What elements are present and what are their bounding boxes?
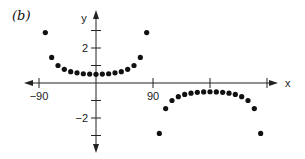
data-point (106, 71, 111, 76)
data-point (112, 70, 117, 75)
data-point (81, 71, 86, 76)
axis-labels: −90902−2xy (30, 12, 291, 124)
data-point (182, 92, 187, 97)
data-point (87, 71, 92, 76)
y-tick-label: 2 (82, 42, 88, 54)
data-point (226, 91, 231, 96)
y-axis-up-arrow-icon (93, 10, 99, 19)
x-tick-label: −90 (30, 90, 49, 102)
data-point (144, 30, 149, 35)
data-point (207, 89, 212, 94)
data-point (233, 92, 238, 97)
data-point (169, 98, 174, 103)
data-point (176, 94, 181, 99)
axes (24, 10, 278, 153)
data-point (62, 67, 67, 72)
x-axis-left-arrow-icon (24, 80, 33, 86)
data-point (258, 131, 263, 136)
data-point (138, 55, 143, 60)
data-point (220, 90, 225, 95)
data-point (245, 98, 250, 103)
x-axis-right-arrow-icon (269, 80, 278, 86)
data-point (163, 106, 168, 111)
data-point (125, 67, 130, 72)
data-point (252, 106, 257, 111)
data-point (195, 90, 200, 95)
data-point (201, 89, 206, 94)
data-point (214, 89, 219, 94)
y-tick-label: −2 (75, 112, 88, 124)
x-tick-label: 90 (147, 90, 159, 102)
data-point (157, 131, 162, 136)
data-point (55, 63, 60, 68)
x-axis-label: x (285, 77, 291, 89)
data-point (74, 70, 79, 75)
data-point (119, 69, 124, 74)
data-point (93, 72, 98, 77)
data-point (68, 69, 73, 74)
data-point (239, 94, 244, 99)
data-point (188, 91, 193, 96)
y-axis-down-arrow-icon (93, 144, 99, 153)
scatter-chart: −90902−2xy (0, 0, 305, 159)
data-point (131, 63, 136, 68)
y-axis-label: y (81, 12, 87, 24)
data-point (49, 55, 54, 60)
data-point (43, 30, 48, 35)
data-point (100, 71, 105, 76)
